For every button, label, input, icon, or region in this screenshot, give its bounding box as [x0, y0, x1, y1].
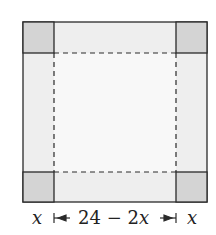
box-net-diagram: x 24 − 2x x — [0, 0, 216, 235]
label-middle-dimension: 24 − 2x — [78, 207, 149, 228]
label-left-x: x — [32, 207, 42, 228]
corner-square-bottom-right — [176, 172, 207, 202]
corner-square-bottom-left — [23, 172, 54, 202]
label-right-x: x — [187, 207, 197, 228]
corner-square-top-right — [176, 22, 207, 53]
label-middle-num: 24 − 2 — [78, 207, 139, 228]
label-middle-var: x — [139, 207, 149, 228]
corner-square-top-left — [23, 22, 54, 53]
base-region — [54, 53, 176, 172]
